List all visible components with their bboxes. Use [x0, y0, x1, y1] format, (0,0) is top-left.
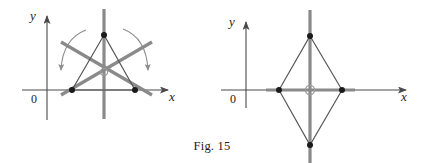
figure-canvas: y x 0 y — [0, 0, 424, 163]
rhombus-vertex-right — [339, 87, 345, 93]
left-panel-origin-label: 0 — [31, 92, 37, 106]
right-panel-x-axis-label: x — [400, 89, 407, 104]
figure-container: y x 0 y — [0, 0, 424, 163]
rhombus-vertex-bottom — [307, 142, 313, 148]
triangle-vertex-bottom-right — [132, 87, 138, 93]
figure-caption: Fig. 15 — [194, 139, 231, 153]
rhombus-vertex-top — [307, 33, 313, 39]
left-panel-x-axis-label: x — [168, 89, 175, 104]
right-panel-y-axis-label: y — [227, 14, 235, 29]
triangle-vertex-apex — [101, 32, 107, 38]
right-panel-origin-label: 0 — [230, 92, 236, 106]
rhombus-vertex-left — [276, 87, 282, 93]
triangle-vertex-bottom-left — [69, 87, 75, 93]
left-panel-y-axis-label: y — [28, 8, 36, 23]
